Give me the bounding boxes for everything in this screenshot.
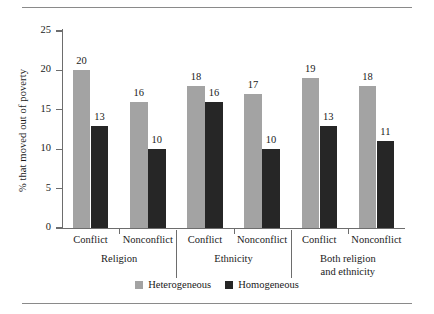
x-divider-tick <box>119 228 120 234</box>
bar-heterogeneous-5 <box>359 86 377 228</box>
x-group-label-line2: and ethnicity <box>288 266 408 279</box>
legend-item-heterogeneous: Heterogeneous <box>135 279 211 290</box>
bar-homogeneous-2 <box>205 102 223 228</box>
y-tick-mark <box>56 30 62 31</box>
legend-swatch-icon <box>225 281 233 289</box>
x-group-label: Both religionand ethnicity <box>288 253 408 278</box>
bar-heterogeneous-3 <box>244 94 262 228</box>
y-tick-label: 20 <box>11 64 51 75</box>
bar-value-label: 10 <box>140 135 174 146</box>
y-tick-mark <box>56 149 62 150</box>
grouped-bar-chart: % that moved out of poverty 0510152025 2… <box>0 0 434 314</box>
legend-swatch-icon <box>135 281 143 289</box>
legend-label: Homogeneous <box>238 279 299 290</box>
legend-item-homogeneous: Homogeneous <box>225 279 299 290</box>
bar-value-label: 19 <box>294 64 328 75</box>
y-tick-mark <box>56 188 62 189</box>
bar-homogeneous-0 <box>91 126 109 228</box>
bar-value-label: 17 <box>236 80 270 91</box>
bar-value-label: 13 <box>312 112 346 123</box>
y-tick-mark <box>56 109 62 110</box>
x-category-label: Nonconflict <box>331 234 421 245</box>
y-tick-label: 25 <box>11 25 51 36</box>
legend-label: Heterogeneous <box>148 279 211 290</box>
bar-value-label: 18 <box>179 72 213 83</box>
bar-heterogeneous-1 <box>130 102 148 228</box>
x-divider-tick <box>234 228 235 234</box>
bar-value-label: 11 <box>369 127 403 138</box>
x-group-label: Ethnicity <box>174 253 294 266</box>
bar-heterogeneous-2 <box>187 86 205 228</box>
x-divider-tick <box>348 228 349 234</box>
bar-value-label: 16 <box>122 88 156 99</box>
y-tick-label: 5 <box>11 183 51 194</box>
y-tick-label: 15 <box>11 104 51 115</box>
y-tick-mark <box>56 227 62 228</box>
x-group-label: Religion <box>59 253 179 266</box>
bar-heterogeneous-4 <box>302 78 320 228</box>
bar-value-label: 16 <box>197 88 231 99</box>
bar-homogeneous-5 <box>377 141 395 228</box>
bar-value-label: 13 <box>83 112 117 123</box>
bar-homogeneous-3 <box>262 149 280 228</box>
group-separator <box>176 230 177 278</box>
bar-homogeneous-4 <box>320 126 338 228</box>
x-group-label-line1: Both religion <box>288 253 408 266</box>
bar-value-label: 10 <box>254 135 288 146</box>
y-tick-label: 0 <box>11 222 51 233</box>
y-tick-label: 10 <box>11 143 51 154</box>
y-axis-line <box>62 29 63 229</box>
bar-value-label: 18 <box>351 72 385 83</box>
chart-legend: HeterogeneousHomogeneous <box>0 279 434 290</box>
bar-value-label: 20 <box>65 56 99 67</box>
bar-homogeneous-1 <box>148 149 166 228</box>
bar-heterogeneous-0 <box>73 70 91 228</box>
y-tick-mark <box>56 70 62 71</box>
group-separator <box>291 230 292 278</box>
